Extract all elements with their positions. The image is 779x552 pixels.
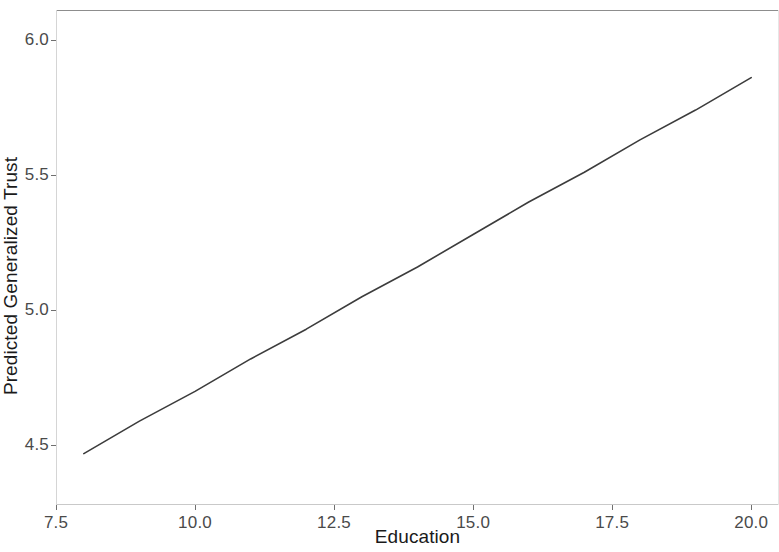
chart-figure: Predicted Generalized Trust 4.55.05.56.0… xyxy=(0,0,779,552)
x-tick-mark xyxy=(56,505,57,510)
x-tick-mark xyxy=(612,505,613,510)
x-tick-mark xyxy=(195,505,196,510)
plot-panel xyxy=(56,10,779,505)
x-tick-mark xyxy=(751,505,752,510)
y-tick-label: 5.5 xyxy=(3,165,49,185)
x-axis-title: Education xyxy=(56,526,779,548)
y-tick-label: 5.0 xyxy=(3,300,49,320)
x-tick-mark xyxy=(473,505,474,510)
y-axis-title: Predicted Generalized Trust xyxy=(0,0,24,552)
y-tick-label: 6.0 xyxy=(3,30,49,50)
y-axis-title-text: Predicted Generalized Trust xyxy=(0,157,22,395)
x-tick-mark xyxy=(334,505,335,510)
prediction-line xyxy=(84,78,751,454)
y-tick-label: 4.5 xyxy=(3,435,49,455)
data-layer xyxy=(56,10,779,505)
